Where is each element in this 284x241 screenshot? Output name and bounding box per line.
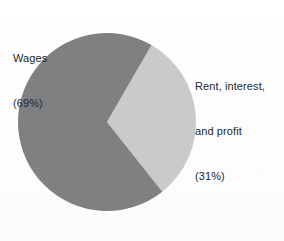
pie-chart-figure: Wages (69%) Rent, interest, and profit (… (0, 0, 284, 241)
pie-label-rent-line-2: and profit (195, 124, 265, 139)
pie-label-rent-line-1: Rent, interest, (195, 79, 265, 94)
pie-label-rent-interest-profit: Rent, interest, and profit (31%) (195, 49, 265, 214)
pie-label-wages-percent: (69%) (13, 96, 47, 111)
pie-label-rent-percent: (31%) (195, 169, 265, 184)
pie-label-wages: Wages (69%) (13, 21, 47, 141)
pie-label-wages-name: Wages (13, 51, 47, 66)
